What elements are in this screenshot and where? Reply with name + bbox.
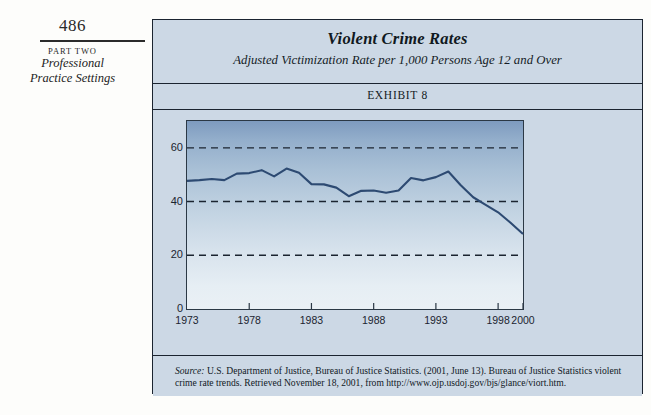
page-rule-divider: [40, 40, 145, 42]
exhibit-label: EXHIBIT 8: [153, 89, 642, 101]
part-title-line-2: Practice Settings: [0, 71, 145, 86]
source-body: U.S. Department of Justice, Bureau of Ju…: [175, 365, 621, 388]
y-tick-label-0: 0: [155, 302, 183, 314]
page-margin-block: 486 PART TWO Professional Practice Setti…: [0, 0, 152, 415]
exhibit-figure: Violent Crime Rates Adjusted Victimizati…: [152, 19, 643, 394]
chart-subtitle: Adjusted Victimization Rate per 1,000 Pe…: [153, 53, 642, 68]
y-tick-label-20: 20: [155, 248, 183, 260]
x-tick-label-1998: 1998: [486, 314, 509, 326]
source-note-band: Source: U.S. Department of Justice, Bure…: [153, 356, 642, 396]
exhibit-title-band: Violent Crime Rates Adjusted Victimizati…: [153, 20, 642, 84]
source-label: Source:: [175, 365, 204, 376]
y-tick-label-60: 60: [155, 141, 183, 153]
y-tick-label-40: 40: [155, 195, 183, 207]
x-tick-label-1973: 1973: [175, 314, 198, 326]
source-note: Source: U.S. Department of Justice, Bure…: [175, 365, 628, 390]
x-tick-label-1988: 1988: [362, 314, 385, 326]
y-axis-tick-labels: 0204060: [153, 120, 183, 320]
page-number: 486: [0, 16, 145, 36]
x-tick-label-1993: 1993: [424, 314, 447, 326]
chart-title: Violent Crime Rates: [153, 29, 642, 49]
line-chart-svg: [186, 120, 524, 310]
part-label: PART TWO: [0, 46, 145, 56]
part-title-line-1: Professional: [0, 56, 145, 71]
x-axis-tick-labels: 1973197819831988199319982000: [186, 314, 536, 332]
exhibit-number-band: EXHIBIT 8: [153, 84, 642, 110]
plot-wrapper: [186, 120, 524, 310]
x-tick-label-1983: 1983: [300, 314, 323, 326]
chart-plot-container: 0204060 1973197819831988199319982000: [153, 110, 642, 356]
x-tick-label-2000: 2000: [511, 314, 534, 326]
x-tick-label-1978: 1978: [238, 314, 261, 326]
part-title: Professional Practice Settings: [0, 56, 145, 86]
